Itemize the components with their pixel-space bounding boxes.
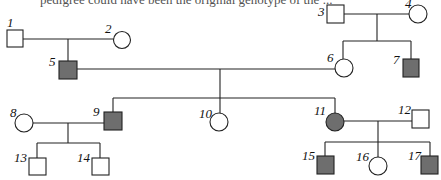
individual-7-affected-male-square (403, 59, 419, 77)
pedigree-chart: 1 2 3 4 5 6 7 8 9 10 11 12 13 14 15 16 1… (0, 0, 441, 180)
label-14: 14 (77, 150, 91, 165)
individual-5-affected-male-square (59, 61, 77, 79)
individual-4-female-circle (409, 5, 427, 23)
individual-labels: 1 2 3 4 5 6 7 8 9 10 11 12 13 14 15 16 1… (7, 0, 422, 165)
label-5: 5 (49, 54, 56, 69)
individual-6-female-circle (335, 59, 353, 77)
label-9: 9 (93, 104, 100, 119)
individual-11-affected-female-circle (326, 113, 344, 131)
label-15: 15 (302, 148, 316, 163)
label-6: 6 (327, 50, 334, 65)
label-1: 1 (7, 15, 14, 30)
label-10: 10 (199, 106, 213, 121)
label-3: 3 (317, 4, 325, 19)
label-12: 12 (398, 102, 412, 117)
label-2: 2 (105, 21, 112, 36)
individual-16-female-circle (369, 157, 387, 175)
individual-14-male-square (92, 158, 109, 175)
label-8: 8 (10, 105, 17, 120)
individual-3-male-square (327, 5, 344, 23)
individual-15-affected-male-square (317, 156, 334, 174)
individual-12-male-square (412, 110, 429, 128)
individual-17-affected-male-square (421, 156, 438, 174)
label-4: 4 (405, 0, 412, 11)
individual-10-female-circle (210, 113, 228, 131)
individual-13-male-square (29, 158, 46, 175)
individual-2-female-circle (114, 32, 131, 49)
label-11: 11 (314, 103, 326, 118)
individual-9-affected-male-square (104, 112, 122, 130)
connector-lines (23, 14, 430, 158)
individual-8-female-circle (15, 114, 33, 132)
individuals (7, 5, 438, 175)
label-13: 13 (14, 150, 28, 165)
individual-1-male-square (7, 30, 23, 47)
label-16: 16 (356, 149, 370, 164)
label-7: 7 (393, 52, 400, 67)
label-17: 17 (408, 148, 422, 163)
